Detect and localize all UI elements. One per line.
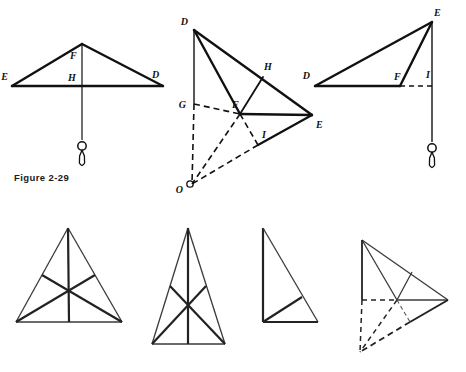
pictorial-edge-E-I: [258, 115, 312, 145]
front-view-right-slope: [82, 44, 163, 86]
equilateral-triangle-with-medians: [16, 228, 122, 322]
pictorial-label-H: H: [263, 61, 273, 72]
triangle-d-hidden-G-O: [360, 300, 362, 352]
triangle-d-hidden-F-O: [360, 300, 397, 352]
side-view-label-E: E: [433, 7, 441, 18]
front-view-label-D: D: [151, 69, 159, 80]
pictorial-hidden-I-O: [192, 145, 258, 184]
pictorial-oblique-view: D G H F E I O: [176, 16, 323, 195]
front-view-label-H: H: [67, 72, 77, 83]
pictorial-edge-H-F: [240, 77, 263, 114]
figure-caption: Figure 2-29: [14, 172, 69, 183]
triangle-d-edge-D-E: [362, 240, 448, 300]
triangle-d-edge-H-F: [397, 272, 412, 300]
triangle-d-hidden-I-O: [360, 322, 410, 352]
diagram-canvas: E D F H: [0, 0, 466, 372]
plumb-bob-icon: [78, 142, 86, 166]
pictorial-edge-F-E: [240, 114, 312, 115]
side-view-label-I: I: [425, 69, 431, 80]
figure-sheet: E D F H: [0, 0, 466, 372]
pictorial-label-F: F: [231, 99, 239, 110]
front-view-label-E: E: [0, 71, 8, 82]
pictorial-label-G: G: [179, 99, 187, 110]
triangle-c-cevian: [263, 297, 302, 322]
side-view-label-D: D: [302, 70, 310, 81]
pictorial-triangle-with-hidden-lines: [360, 240, 448, 352]
front-view-triangle-with-plumb-bob: E D F H: [0, 44, 163, 166]
pictorial-hidden-F-I: [240, 114, 258, 145]
triangle-a-median-from-apex: [68, 228, 69, 322]
pictorial-label-D: D: [180, 16, 188, 27]
narrow-tall-triangle-with-medians: [152, 228, 225, 344]
pictorial-edge-D-E: [194, 30, 312, 115]
pictorial-hidden-G-O: [192, 104, 194, 184]
triangle-d-hidden-F-I: [397, 300, 410, 322]
side-view-triangle-with-plumb-bob: E D F I: [302, 7, 441, 168]
side-view-hypotenuse-D-E: [315, 22, 432, 86]
right-triangle-with-cevian: [263, 228, 318, 322]
triangle-b-right-side: [188, 228, 225, 344]
side-view-label-F: F: [393, 71, 401, 82]
pictorial-label-E: E: [315, 119, 323, 130]
pictorial-hidden-F-O: [192, 114, 240, 184]
pictorial-label-O: O: [176, 184, 183, 195]
pictorial-label-I: I: [261, 129, 267, 140]
triangle-d-edge-D-F: [362, 240, 397, 300]
triangle-d-edge-E-I: [410, 300, 448, 322]
front-view-label-F: F: [69, 50, 77, 61]
plumb-bob-icon: [428, 144, 436, 168]
triangle-c-hypotenuse: [263, 228, 318, 322]
